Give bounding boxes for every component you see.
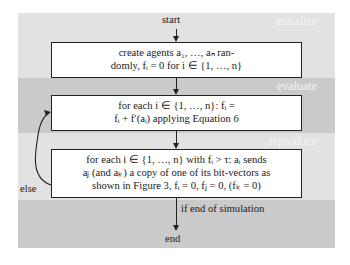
else-label: else <box>20 183 36 194</box>
else-loop-arrow <box>0 0 350 265</box>
